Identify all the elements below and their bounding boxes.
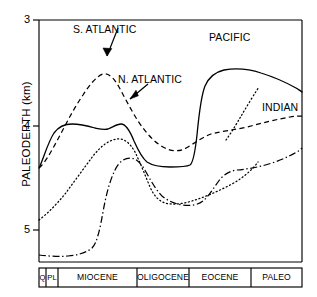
series-label-pacific: PACIFIC bbox=[209, 31, 250, 43]
y-tick-label-4: 4 bbox=[14, 119, 30, 131]
epoch-label-eocene: EOCENE bbox=[189, 270, 251, 284]
annotation-arrows bbox=[103, 28, 148, 99]
series-label-n-atlantic: N. ATLANTIC bbox=[118, 73, 182, 85]
epoch-label-miocene: MIOCENE bbox=[58, 270, 137, 284]
axis-frame bbox=[39, 20, 302, 262]
series-line-indian bbox=[39, 148, 302, 256]
chart-plot-area bbox=[0, 0, 317, 297]
arrow-head-n-atlantic bbox=[130, 90, 138, 99]
paleodepth-chart-figure: PALEODEPTH (km) 3 4 5 S. ATLANTIC N. ATL… bbox=[0, 0, 317, 297]
y-tick-marks bbox=[33, 20, 39, 230]
epoch-label-paleo: PALEO bbox=[251, 270, 302, 284]
y-axis-title: PALEODEPTH (km) bbox=[20, 64, 32, 204]
y-tick-label-5: 5 bbox=[14, 223, 30, 235]
epoch-label-q: Q bbox=[39, 271, 46, 285]
epoch-label-oligocene: OLIGOCENE bbox=[137, 270, 189, 284]
series-line-n-atlantic bbox=[39, 139, 258, 220]
arrow-head-s-atlantic bbox=[103, 48, 112, 56]
epoch-label-pl: PL bbox=[46, 271, 58, 285]
series-label-indian: INDIAN bbox=[262, 101, 298, 113]
series-line-n-atlantic-right-segment bbox=[226, 87, 259, 140]
series-line-s-atlantic bbox=[39, 74, 302, 168]
y-tick-label-3: 3 bbox=[14, 13, 30, 25]
series-label-s-atlantic: S. ATLANTIC bbox=[73, 23, 136, 35]
